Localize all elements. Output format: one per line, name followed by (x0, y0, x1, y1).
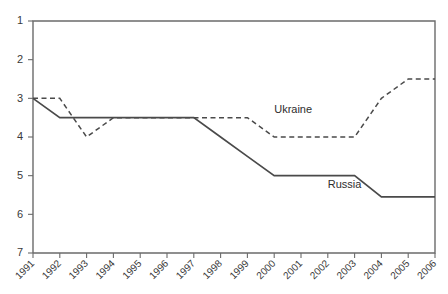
line-chart: 1234567 19911992199319941995199619971998… (0, 0, 448, 294)
chart-container: 1234567 19911992199319941995199619971998… (0, 0, 448, 294)
y-tick-label-4: 4 (17, 130, 23, 142)
x-tick-label-1993: 1993 (67, 257, 91, 281)
x-axis-tick-labels: 1991199219931994199519961997199819992000… (13, 257, 439, 281)
x-tick-label-2006: 2006 (415, 257, 439, 281)
x-tick-label-2002: 2002 (308, 257, 332, 281)
y-axis-tick-labels: 1234567 (17, 14, 23, 258)
series-annotations: UkraineRussia (274, 103, 362, 190)
y-tick-label-3: 3 (17, 92, 23, 104)
x-axis-ticks (33, 253, 435, 258)
series-lines (33, 79, 435, 197)
series-line-russia (33, 98, 435, 197)
y-tick-label-5: 5 (17, 169, 23, 181)
x-tick-label-1995: 1995 (120, 257, 144, 281)
series-label-ukraine: Ukraine (274, 103, 312, 115)
x-tick-label-2001: 2001 (281, 257, 305, 281)
x-tick-label-1992: 1992 (40, 257, 64, 281)
x-tick-label-1991: 1991 (13, 257, 37, 281)
x-tick-label-1996: 1996 (147, 257, 171, 281)
x-tick-label-2003: 2003 (335, 257, 359, 281)
x-tick-label-2005: 2005 (388, 257, 412, 281)
x-tick-label-1997: 1997 (174, 257, 198, 281)
x-tick-label-1998: 1998 (201, 257, 225, 281)
x-tick-label-1994: 1994 (93, 257, 117, 281)
y-tick-label-2: 2 (17, 53, 23, 65)
series-line-ukraine (33, 79, 435, 137)
y-tick-label-6: 6 (17, 208, 23, 220)
y-tick-label-7: 7 (17, 246, 23, 258)
series-label-russia: Russia (328, 178, 363, 190)
plot-border (33, 21, 435, 253)
y-axis-ticks (28, 21, 33, 253)
plot-frame (33, 21, 435, 253)
x-tick-label-2000: 2000 (254, 257, 278, 281)
x-tick-label-1999: 1999 (227, 257, 251, 281)
y-tick-label-1: 1 (17, 14, 23, 26)
x-tick-label-2004: 2004 (361, 257, 385, 281)
